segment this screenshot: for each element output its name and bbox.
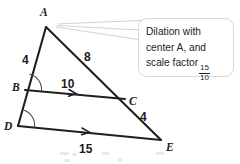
segment-de (18, 126, 161, 140)
leader-line-upper (58, 20, 150, 24)
callout-line-1: Dilation with (146, 24, 227, 40)
callout-box: Dilation with center A, and scale factor… (138, 18, 234, 77)
vertex-label-b: B (11, 81, 20, 93)
angle-arc-d (24, 110, 35, 127)
vertex-label-d: D (3, 120, 13, 132)
geometry-figure: A B C D E 4 8 10 4 15 Dilation with cent… (0, 0, 240, 164)
vertex-label-a: A (39, 6, 48, 18)
fraction-denominator: 10 (199, 73, 210, 83)
segment-ad (18, 27, 46, 126)
side-label-ac: 8 (84, 50, 91, 64)
side-label-ab: 4 (22, 53, 29, 67)
side-label-ce: 4 (140, 110, 147, 124)
side-label-bc: 10 (61, 77, 75, 91)
vertex-label-c: C (129, 95, 137, 107)
scale-factor-fraction: 1510 (199, 64, 210, 82)
callout-line-3: scale factor1510 (146, 55, 227, 82)
callout-line-2: center A, and (146, 40, 227, 56)
callout-scale-factor-text: scale factor (146, 57, 198, 68)
fraction-numerator: 15 (199, 64, 210, 73)
cropped-text-remnant (58, 152, 178, 163)
